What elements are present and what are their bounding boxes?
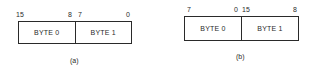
bit-label-8: 8 bbox=[293, 6, 297, 14]
bit-label-15: 15 bbox=[242, 6, 250, 14]
byte-cell-0: BYTE 0 bbox=[185, 17, 241, 40]
figure-b: 7 0 15 8 BYTE 0 BYTE 1 (b) bbox=[0, 0, 315, 73]
byte-cell-1: BYTE 1 bbox=[241, 17, 298, 40]
bit-label-0: 0 bbox=[234, 6, 238, 14]
bit-label-7: 7 bbox=[187, 6, 191, 14]
figure-caption-b: (b) bbox=[236, 53, 245, 60]
word-box-b: BYTE 0 BYTE 1 bbox=[184, 16, 299, 41]
